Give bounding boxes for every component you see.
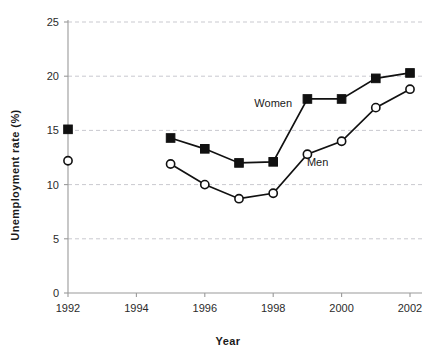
data-point-women-1996 — [201, 145, 210, 154]
x-tick-label-1994: 1994 — [124, 302, 148, 314]
data-point-women-1998 — [269, 158, 278, 167]
data-point-women-2000 — [337, 95, 346, 104]
series-label-women: Women — [254, 97, 292, 109]
x-axis-title: Year — [216, 335, 241, 347]
y-tick-label-20: 20 — [47, 70, 59, 82]
x-tick-label-1996: 1996 — [193, 302, 217, 314]
x-tick-label-2000: 2000 — [329, 302, 353, 314]
series-label-men: Men — [307, 156, 328, 168]
y-tick-label-10: 10 — [47, 179, 59, 191]
data-point-men-2000 — [338, 137, 346, 145]
data-point-men-1997 — [235, 195, 243, 203]
data-point-men-1995 — [167, 160, 175, 168]
data-point-men-1992 — [64, 157, 72, 165]
data-point-women-1992 — [64, 125, 73, 134]
x-tick-label-2002: 2002 — [398, 302, 422, 314]
data-point-women-1999 — [303, 95, 312, 104]
data-point-men-1998 — [269, 189, 277, 197]
y-tick-label-25: 25 — [47, 16, 59, 28]
data-point-men-2002 — [406, 85, 414, 93]
data-point-women-1995 — [166, 134, 175, 143]
y-tick-label-0: 0 — [53, 287, 59, 299]
x-tick-label-1998: 1998 — [261, 302, 285, 314]
unemployment-rate-line-chart: 0510152025 199219941996199820002002 Wome… — [0, 0, 439, 361]
y-tick-label-15: 15 — [47, 124, 59, 136]
data-point-women-1997 — [235, 159, 244, 168]
chart-canvas: 0510152025 199219941996199820002002 Wome… — [0, 0, 439, 361]
data-point-men-2001 — [372, 104, 380, 112]
y-tick-label-5: 5 — [53, 233, 59, 245]
data-point-women-2001 — [372, 74, 381, 83]
x-tick-label-1992: 1992 — [56, 302, 80, 314]
data-point-women-2002 — [406, 69, 415, 78]
y-axis-title: Unemployment rate (%) — [9, 109, 21, 240]
data-point-men-1996 — [201, 181, 209, 189]
